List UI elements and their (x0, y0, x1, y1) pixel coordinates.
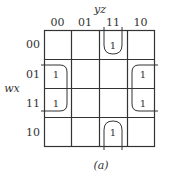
cell-00-11: 1 (99, 40, 127, 51)
caption: (a) (86, 160, 116, 171)
cell-11-00: 1 (48, 98, 64, 109)
cell-01-00: 1 (48, 69, 64, 80)
cell-10-11: 1 (99, 127, 127, 138)
kmap-grid (0, 0, 192, 179)
cell-11-10: 1 (135, 98, 151, 109)
cell-01-10: 1 (135, 69, 151, 80)
